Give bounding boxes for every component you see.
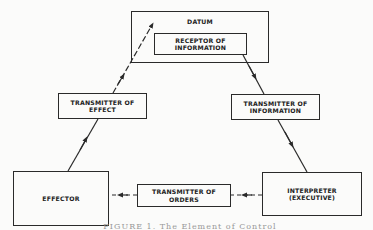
control-loop-diagram: DATUM RECEPTOR OF INFORMATION TRANSMITTE… xyxy=(0,0,373,230)
figure-caption: FIGURE 1. The Element of Control xyxy=(90,222,290,230)
transmitter-of-effect-box: TRANSMITTER OF EFFECT xyxy=(58,93,147,119)
transmitter-of-orders-box: TRANSMITTER OF ORDERS xyxy=(137,184,231,207)
transmitter-orders-label: TRANSMITTER OF ORDERS xyxy=(152,188,216,203)
receptor-of-information-box: RECEPTOR OF INFORMATION xyxy=(154,33,247,55)
transmitter-effect-label: TRANSMITTER OF EFFECT xyxy=(71,99,135,114)
edge-effector-to-transmitter-effect xyxy=(68,119,98,171)
interpreter-box: INTERPRETER (EXECUTIVE) xyxy=(262,172,362,216)
transmitter-information-label: TRANSMITTER OF INFORMATION xyxy=(244,100,308,115)
effector-box: EFFECTOR xyxy=(13,171,109,226)
datum-label: DATUM xyxy=(187,18,213,25)
interpreter-label: INTERPRETER (EXECUTIVE) xyxy=(287,187,337,202)
edge-transmitter-information-to-interpreter xyxy=(278,120,307,172)
receptor-label: RECEPTOR OF INFORMATION xyxy=(175,37,226,52)
transmitter-of-information-box: TRANSMITTER OF INFORMATION xyxy=(231,94,320,120)
effector-label: EFFECTOR xyxy=(42,195,79,202)
